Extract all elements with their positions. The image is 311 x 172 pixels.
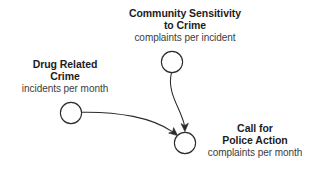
node-title-line-1: Drug Related [2,58,128,70]
node-circle-call-for-police-action[interactable] [174,132,195,153]
link-sensitivity-to-police-action-path [170,73,184,125]
link-sensitivity-to-police-action [170,73,188,131]
node-title-line-2: to Crime [111,19,259,31]
node-label-community-sensitivity-to-crime: Community Sensitivity to Crime complaint… [111,7,259,44]
node-units-call-for-police-action: complaints per month [196,147,311,159]
node-label-call-for-police-action: Call for Police Action complaints per mo… [196,122,311,159]
node-title-line-1: Community Sensitivity [111,7,259,19]
node-units-community-sensitivity-to-crime: complaints per incident [111,32,259,44]
arrowhead-diagonal-icon [169,128,178,136]
node-units-drug-related-crime: incidents per month [2,83,128,95]
node-title-line-2: Police Action [196,134,311,146]
node-circle-community-sensitivity-to-crime[interactable] [161,51,182,72]
node-title-line-2: Crime [2,70,128,82]
node-label-drug-related-crime: Drug Related Crime incidents per month [2,58,128,95]
link-crime-to-police-action [82,112,177,135]
node-title-line-1: Call for [196,122,311,134]
link-crime-to-police-action-path [82,112,172,131]
node-circle-drug-related-crime[interactable] [60,102,81,123]
